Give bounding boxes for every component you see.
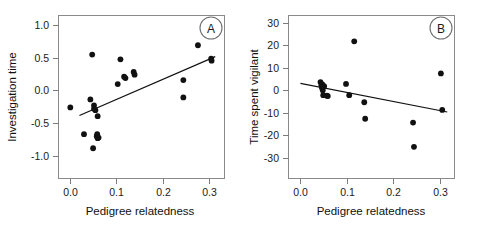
y-tick-label: 30 — [267, 17, 279, 29]
panel-b-time-spent-vigilant: 30 20 10 0 -10 -20 -30 0.0 0.1 0.2 0.3 P… — [244, 0, 487, 231]
y-tick-label: -30 — [264, 152, 279, 164]
panel-a-plot-frame — [59, 16, 225, 179]
data-point — [92, 107, 98, 113]
x-tick-label: 0.3 — [433, 186, 448, 198]
panel-a-x-axis: 0.0 0.1 0.2 0.3 — [63, 179, 217, 199]
panel-b-plot: 30 20 10 0 -10 -20 -30 0.0 0.1 0.2 0.3 P… — [244, 0, 487, 231]
panel-b-y-axis: 30 20 10 0 -10 -20 -30 — [264, 17, 289, 164]
data-point — [89, 52, 95, 58]
data-point — [411, 144, 417, 150]
x-tick-label: 0.1 — [340, 186, 355, 198]
data-point — [95, 113, 101, 119]
panel-b-data-points — [318, 38, 446, 149]
data-point — [351, 38, 357, 44]
panel-a-x-axis-title: Pedigree relatedness — [86, 205, 195, 217]
y-tick-label: -0.5 — [31, 117, 49, 129]
data-point — [410, 120, 416, 126]
data-point — [67, 105, 73, 111]
panel-b-y-axis-title: Time spent vigilant — [248, 48, 260, 144]
data-point — [362, 116, 368, 122]
data-point — [118, 56, 124, 62]
data-point — [81, 131, 87, 137]
data-point — [180, 77, 186, 83]
x-tick-label: 0.0 — [293, 186, 308, 198]
x-tick-label: 0.2 — [156, 186, 171, 198]
data-point — [123, 75, 129, 81]
panel-a-y-axis-title: Investigation time — [6, 52, 18, 142]
y-tick-label: 0.5 — [34, 52, 49, 64]
panel-a-plot: 1.0 0.5 0.0 -0.5 -1.0 0.0 0.1 0.2 0.3 Pe… — [0, 0, 243, 231]
panel-a-badge: A — [200, 17, 222, 39]
y-tick-label: -10 — [264, 107, 279, 119]
data-point — [321, 83, 327, 89]
panel-a-investigation-time: 1.0 0.5 0.0 -0.5 -1.0 0.0 0.1 0.2 0.3 Pe… — [0, 0, 243, 231]
data-point — [325, 93, 331, 99]
y-tick-label: 10 — [267, 62, 279, 74]
y-tick-label: -1.0 — [31, 150, 49, 162]
data-point — [438, 71, 444, 77]
data-point — [96, 135, 102, 141]
x-tick-label: 0.3 — [202, 186, 217, 198]
data-point — [343, 81, 349, 87]
panel-a-regression-line-layer — [79, 57, 215, 116]
y-tick-label: 20 — [267, 39, 279, 51]
panel-badge-label: A — [207, 22, 215, 36]
data-point — [195, 42, 201, 48]
y-tick-label: 0 — [273, 84, 279, 96]
y-tick-label: -20 — [264, 129, 279, 141]
data-point — [87, 97, 93, 103]
panel-a-data-points — [67, 42, 214, 151]
data-point — [90, 145, 96, 151]
x-tick-label: 0.1 — [109, 186, 124, 198]
data-point — [209, 58, 215, 64]
x-tick-label: 0.0 — [63, 186, 78, 198]
x-tick-label: 0.2 — [386, 186, 401, 198]
regression-line — [79, 57, 215, 116]
data-point — [361, 99, 367, 105]
data-point — [115, 81, 121, 87]
panel-b-x-axis: 0.0 0.1 0.2 0.3 — [293, 179, 448, 199]
y-tick-label: 0.0 — [34, 84, 49, 96]
panel-a-y-axis: 1.0 0.5 0.0 -0.5 -1.0 — [31, 19, 59, 162]
panel-b-x-axis-title: Pedigree relatedness — [317, 205, 426, 217]
figure-container: 1.0 0.5 0.0 -0.5 -1.0 0.0 0.1 0.2 0.3 Pe… — [0, 0, 487, 231]
data-point — [346, 92, 352, 98]
data-point — [132, 72, 138, 78]
data-point — [180, 95, 186, 101]
data-point — [439, 107, 445, 113]
panel-badge-label: B — [437, 22, 445, 36]
panel-b-badge: B — [430, 17, 452, 39]
y-tick-label: 1.0 — [34, 19, 49, 31]
